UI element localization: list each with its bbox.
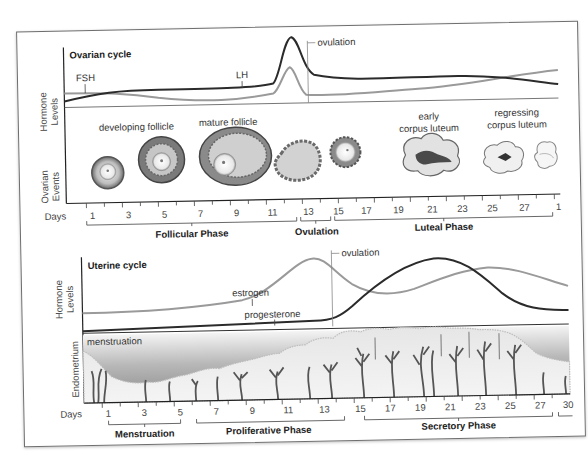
progesterone-label: progesterone: [244, 308, 300, 320]
ovulation-label: ovulation: [317, 36, 355, 48]
svg-text:15: 15: [333, 205, 344, 216]
svg-text:27: 27: [535, 399, 546, 410]
fsh-curve: [64, 62, 559, 103]
ovarian-cycle-panel: Hormone Levels Ovarian Events Ovarian cy…: [36, 32, 561, 242]
uterine-hormone-axis-label-2: Levels: [64, 285, 76, 313]
regressing-corpus-luteum-label-1: regressing: [494, 106, 539, 118]
ovarian-hormone-axis-label-2: Levels: [48, 98, 60, 126]
menstruation-label: menstruation: [87, 335, 142, 347]
developing-follicle-label: developing follicle: [99, 120, 174, 132]
svg-text:21: 21: [427, 203, 438, 214]
ovarian-days-label: Days: [45, 210, 67, 221]
regressing-corpus-luteum-2: [534, 142, 557, 169]
ovarian-events-axis-label-2: Events: [50, 172, 62, 201]
luteal-phase-label: Luteal Phase: [414, 221, 473, 233]
svg-text:7: 7: [214, 406, 220, 417]
uterine-ovulation-marker-line: [331, 250, 332, 326]
endometrium-illustration: [83, 324, 570, 403]
svg-text:7: 7: [198, 208, 204, 219]
menstruation-phase-label: Menstruation: [115, 427, 175, 439]
svg-text:30: 30: [563, 399, 574, 410]
svg-text:1: 1: [90, 210, 96, 221]
ovarian-events-axis-label-1: Ovarian: [39, 170, 51, 203]
lh-label: LH: [236, 69, 248, 80]
uterine-hormone-axis-label-1: Hormone: [53, 280, 65, 319]
early-corpus-luteum: [403, 133, 460, 176]
fsh-label: FSH: [76, 72, 95, 83]
ruptured-follicle: [275, 141, 321, 181]
svg-text:1: 1: [556, 201, 562, 212]
released-oocyte: [330, 137, 361, 168]
uterine-days-label: Days: [60, 408, 82, 419]
uterine-cycle-panel: Hormone Levels Endometrium Uterine cycle…: [52, 243, 574, 441]
svg-text:5: 5: [178, 406, 184, 417]
svg-text:15: 15: [355, 403, 366, 414]
early-corpus-luteum-label-2: corpus luteum: [399, 122, 459, 134]
uterine-ovulation-label: ovulation: [341, 246, 379, 258]
svg-text:5: 5: [162, 209, 168, 220]
svg-text:13: 13: [319, 403, 330, 414]
svg-text:19: 19: [393, 204, 404, 215]
svg-text:25: 25: [505, 400, 516, 411]
estrogen-curve: [82, 254, 569, 313]
svg-text:17: 17: [361, 205, 372, 216]
svg-text:11: 11: [268, 206, 278, 217]
endometrium-axis-label: Endometrium: [69, 341, 81, 398]
svg-text:25: 25: [487, 202, 498, 213]
regressing-corpus-luteum-label-2: corpus luteum: [487, 118, 547, 130]
menstrual-cycle-diagram: Hormone Levels Ovarian Events Ovarian cy…: [17, 22, 585, 447]
figure-sheet: Hormone Levels Ovarian Events Ovarian cy…: [16, 21, 586, 448]
svg-text:23: 23: [457, 203, 468, 214]
proliferative-phase-label: Proliferative Phase: [226, 424, 312, 437]
ovarian-y-axis: [63, 48, 66, 204]
svg-text:1: 1: [106, 408, 112, 419]
ovarian-hormone-axis-label-1: Hormone: [37, 92, 49, 131]
svg-text:19: 19: [415, 402, 426, 413]
ovulation-phase-label: Ovulation: [295, 225, 339, 237]
svg-text:21: 21: [445, 401, 456, 412]
svg-text:27: 27: [519, 202, 530, 213]
follicle-developing: [138, 136, 185, 183]
svg-text:9: 9: [234, 207, 240, 218]
svg-text:3: 3: [142, 407, 148, 418]
ovarian-hormone-baseline: [65, 98, 559, 107]
follicle-mature: [199, 127, 272, 186]
svg-text:23: 23: [475, 400, 486, 411]
secretory-phase-label: Secretory Phase: [421, 419, 496, 431]
svg-text:17: 17: [385, 402, 396, 413]
uterine-cycle-title: Uterine cycle: [87, 259, 146, 271]
ovulation-marker-line: [307, 41, 308, 103]
ovarian-day-ticks: [86, 194, 554, 208]
follicular-phase-label: Follicular Phase: [155, 227, 228, 239]
ovarian-day-numbers: 1 3 5 7 9 11 13 15 17 19 21 23 25 27 1: [90, 201, 561, 221]
svg-text:3: 3: [126, 209, 132, 220]
svg-text:11: 11: [283, 404, 293, 415]
svg-text:13: 13: [303, 206, 314, 217]
mature-follicle-label: mature follicle: [199, 116, 258, 128]
ovarian-cycle-title: Ovarian cycle: [69, 48, 131, 60]
regressing-corpus-luteum-1: [483, 141, 524, 173]
early-corpus-luteum-label-1: early: [418, 110, 439, 121]
svg-text:9: 9: [250, 405, 256, 416]
follicle-small: [91, 156, 124, 189]
estrogen-label: estrogen: [232, 287, 269, 299]
